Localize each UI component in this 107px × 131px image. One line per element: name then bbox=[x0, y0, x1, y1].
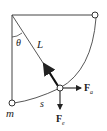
length-label: L bbox=[37, 39, 43, 50]
force-e-label: Fe bbox=[56, 114, 65, 126]
diagram-graphics bbox=[0, 0, 107, 131]
mass-label: m bbox=[6, 108, 14, 119]
mass-m-circle bbox=[9, 100, 15, 106]
theta-label: θ bbox=[16, 38, 21, 48]
tension-arrow bbox=[44, 64, 58, 86]
force-a-label: Fa bbox=[84, 83, 93, 95]
mass-on-arc-circle bbox=[57, 85, 63, 91]
force-e-subscript: e bbox=[62, 120, 65, 126]
arc-s-label: s bbox=[40, 99, 44, 109]
top-right-circle bbox=[92, 12, 98, 18]
force-a-subscript: a bbox=[90, 89, 93, 95]
pendulum-diagram: θ L s m Fa Fe bbox=[0, 0, 107, 131]
